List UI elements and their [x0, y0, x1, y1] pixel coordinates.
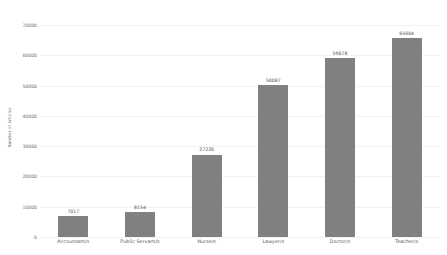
bar-value-label: 65604 [399, 31, 414, 36]
bar-value-label: 50087 [266, 78, 281, 83]
gridline [40, 176, 440, 177]
y-axis-tick-label: 20000 [3, 174, 37, 179]
bar-value-label: 27220 [199, 147, 214, 152]
gridline [40, 146, 440, 147]
y-axis-tick-label: 0 [3, 235, 37, 240]
x-axis-tick-label: Nurse/s [197, 239, 216, 244]
gridline [40, 55, 440, 56]
gridline [40, 25, 440, 26]
x-axis-tick-labels: Accountant/sPublic Servant/sNurse/sLawye… [40, 239, 440, 253]
x-axis-tick-label: Lawyer/s [262, 239, 284, 244]
bar-rect[interactable] [58, 216, 88, 237]
y-axis-tick-label: 10000 [3, 204, 37, 209]
bar-value-label: 7017 [67, 209, 79, 214]
bar-rect[interactable] [258, 85, 288, 237]
x-axis-tick-label: Teacher/s [395, 239, 418, 244]
x-axis-tick-label: Public Servant/s [120, 239, 159, 244]
y-axis-tick-label: 70000 [3, 23, 37, 28]
x-axis-tick-label: Doctor/s [330, 239, 351, 244]
bar-group[interactable]: 27220 [192, 25, 222, 237]
bar-group[interactable]: 7017 [58, 25, 88, 237]
x-axis-tick-label: Accountant/s [57, 239, 89, 244]
y-axis-tick-label: 50000 [3, 83, 37, 88]
gridline [40, 207, 440, 208]
bar-group[interactable]: 50087 [258, 25, 288, 237]
gridline [40, 86, 440, 87]
bar-rect[interactable] [325, 58, 355, 237]
bar-group[interactable]: 59078 [325, 25, 355, 237]
bar-rect[interactable] [125, 212, 155, 237]
plot-area: 7017815427220500875907865604 [40, 25, 440, 237]
bar-value-label: 59078 [333, 51, 348, 56]
bar-group[interactable]: 65604 [392, 25, 422, 237]
bar-rect[interactable] [392, 38, 422, 237]
y-axis-tick-label: 30000 [3, 144, 37, 149]
gridline [40, 237, 440, 238]
bar-group[interactable]: 8154 [125, 25, 155, 237]
bar-value-label: 8154 [134, 205, 146, 210]
bar-rect[interactable] [192, 155, 222, 237]
y-axis-tick-label: 40000 [3, 113, 37, 118]
y-axis-tick-labels: 010000200003000040000500006000070000 [0, 25, 37, 237]
gridline [40, 116, 440, 117]
y-axis-tick-label: 60000 [3, 53, 37, 58]
bar-chart: Number of Articles 010000200003000040000… [0, 0, 447, 255]
